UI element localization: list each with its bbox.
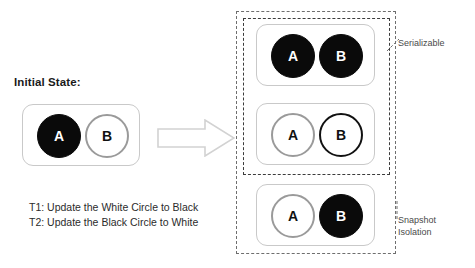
circle-b-outcome-3: B	[319, 194, 363, 238]
circle-a-initial: A	[37, 114, 81, 158]
circle-b-initial: B	[85, 114, 129, 158]
snapshot-isolation-label-line1: Snapshot	[398, 215, 436, 225]
diagram-canvas: Initial State: A B T1: Update the White …	[0, 0, 475, 268]
outcome-box-both-white: A B	[256, 103, 375, 165]
circle-b-outcome-1: B	[319, 34, 363, 78]
initial-state-box: A B	[22, 104, 140, 166]
right-arrow-icon	[157, 119, 235, 157]
transaction-list: T1: Update the White Circle to Black T2:…	[29, 200, 198, 230]
snapshot-isolation-label-line2: Isolation	[398, 227, 432, 237]
circle-b-outcome-2: B	[319, 113, 363, 157]
outcome-box-both-black: A B	[256, 24, 375, 86]
initial-state-label: Initial State:	[14, 76, 81, 88]
outcome-box-swapped: A B	[256, 184, 375, 246]
snapshot-isolation-label: Snapshot Isolation	[398, 215, 436, 238]
circle-a-outcome-3: A	[271, 194, 315, 238]
circle-a-outcome-2: A	[271, 113, 315, 157]
circle-a-outcome-1: A	[271, 34, 315, 78]
transaction-t2: T2: Update the Black Circle to White	[29, 215, 198, 230]
serializable-label: Serializable	[398, 38, 445, 50]
transaction-t1: T1: Update the White Circle to Black	[29, 200, 198, 215]
